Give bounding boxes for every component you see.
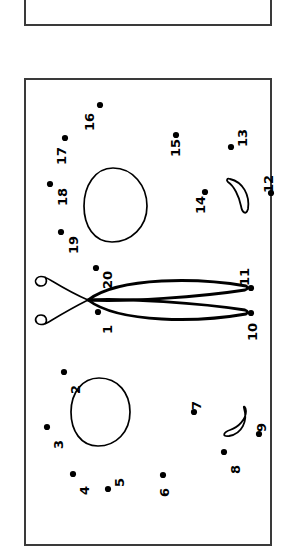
puzzle-dot-label: 14 — [194, 196, 207, 214]
puzzle-dot-label: 17 — [55, 147, 68, 165]
puzzle-dot-label: 10 — [246, 323, 259, 341]
puzzle-dot-label: 18 — [56, 188, 69, 206]
puzzle-dot-label: 8 — [229, 465, 242, 474]
puzzle-dot-label: 13 — [236, 129, 249, 147]
puzzle-dot-label: 9 — [255, 423, 268, 432]
puzzle-dot-label: 1 — [101, 325, 114, 334]
puzzle-dot-label: 15 — [169, 139, 182, 157]
puzzle-dot-label: 20 — [101, 271, 114, 289]
puzzle-dot-label: 12 — [262, 175, 275, 193]
puzzle-dot-label: 4 — [78, 486, 91, 495]
puzzle-dot-label: 7 — [190, 401, 203, 410]
puzzle-dot-label: 5 — [113, 478, 126, 487]
upper-panel — [24, 0, 272, 26]
puzzle-dot-label: 6 — [158, 488, 171, 497]
puzzle-dot-label: 16 — [83, 113, 96, 131]
puzzle-dot-label: 3 — [52, 440, 65, 449]
puzzle-dot-label: 2 — [69, 385, 82, 394]
puzzle-dot-label: 11 — [238, 268, 251, 286]
puzzle-dot-label: 19 — [67, 236, 80, 254]
